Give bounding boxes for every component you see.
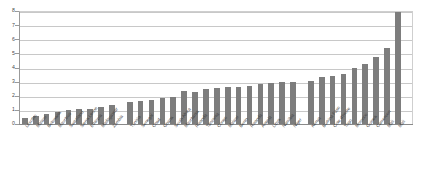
x-tick-label: Mali — [398, 120, 407, 129]
x-tick-label: Tunisia — [130, 115, 142, 129]
x-tick-label: Kenya — [311, 116, 322, 129]
x-tick-label: Congo — [217, 116, 229, 129]
x-tick-label: Togo — [344, 118, 353, 128]
x-tick-label: Niger — [293, 118, 303, 129]
bar-chart: 012345678 LesothoMalawiBotswanaMauritius… — [0, 0, 427, 179]
x-tick-label: Malawi — [36, 115, 48, 129]
x-tick-label: Benin — [239, 117, 250, 129]
x-tick-label: Chad — [152, 118, 162, 129]
x-tick-label: Mali — [387, 120, 396, 129]
x-tick-label: Ghana — [163, 116, 175, 129]
x-axis-labels: LesothoMalawiBotswanaMauritiusSwazilandS… — [0, 0, 427, 179]
x-tick-label: Malawi — [228, 115, 240, 129]
x-tick-label: Libya — [272, 118, 282, 129]
